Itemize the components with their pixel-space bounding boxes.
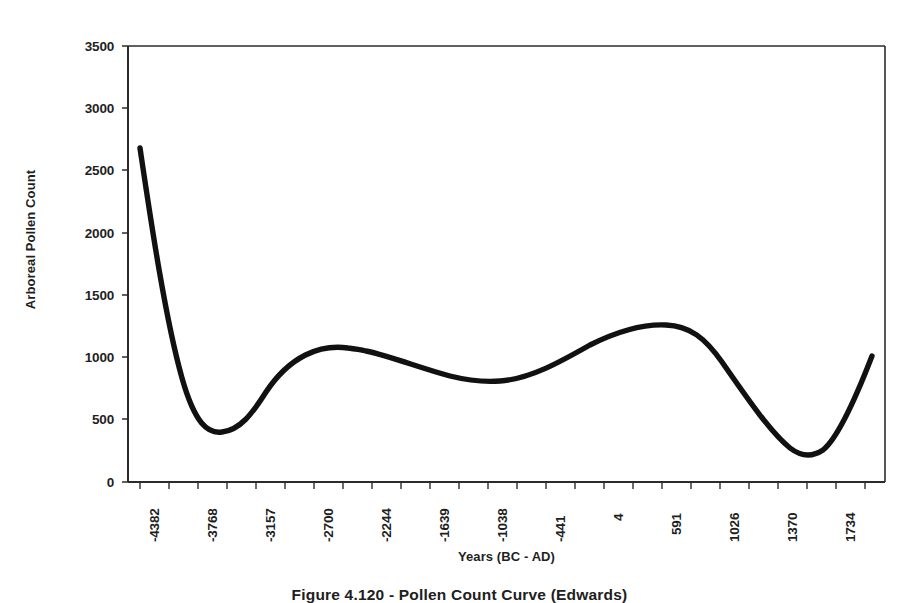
x-axis-title: Years (BC - AD) [128,549,885,564]
x-tick-label-5: -2244 [379,508,394,542]
x-tick-label-6: -1639 [437,508,452,542]
x-tick-label-11: 1026 [727,513,742,542]
x-tick-label-4: -2700 [321,508,336,542]
figure-caption: Figure 4.120 - Pollen Count Curve (Edwar… [0,586,919,603]
pollen-count-curve [140,148,872,455]
y-tick-label-1000: 1000 [54,350,114,365]
plot-frame [128,46,885,482]
x-tick-label-7: -1038 [495,508,510,542]
x-tick-label-12: 1370 [785,513,800,542]
x-tick-label-13: 1734 [843,513,858,542]
y-tick-label-3000: 3000 [54,101,114,116]
y-tick-label-1500: 1500 [54,288,114,303]
chart-plot-area: Arboreal Pollen Count 3500 3000 2500 200… [0,0,919,575]
y-tick-label-2500: 2500 [54,163,114,178]
y-tick-label-2000: 2000 [54,226,114,241]
y-tick-label-500: 500 [54,412,114,427]
pollen-count-figure: Arboreal Pollen Count 3500 3000 2500 200… [0,0,919,603]
x-tick-label-3: -3157 [263,508,278,542]
y-tick-label-3500: 3500 [54,39,114,54]
x-tick-label-1: -4382 [147,508,162,542]
x-tick-label-2: -3768 [205,508,220,542]
y-axis-title: Arboreal Pollen Count [23,130,38,350]
pollen-count-line-chart [0,0,919,575]
y-tick-label-0: 0 [54,475,114,490]
x-tick-label-9: 4 [611,514,626,521]
x-tick-label-8: -441 [553,516,568,542]
x-axis-ticks [140,482,865,489]
x-tick-label-10: 591 [669,513,684,535]
